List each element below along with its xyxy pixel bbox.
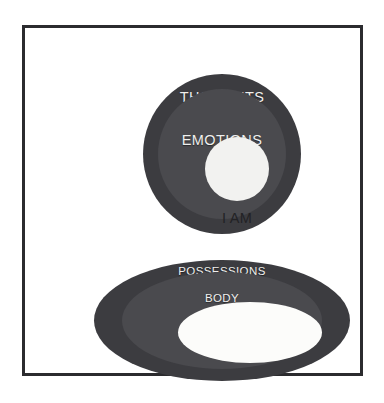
body-ring: BODY: [122, 272, 322, 369]
i-am-core: I AM: [205, 137, 269, 201]
external-ellipse-diagram: POSSESSIONS BODY: [94, 260, 350, 381]
self-circle-diagram: THOUGHTS EMOTIONS I AM: [143, 74, 301, 234]
body-label: BODY: [122, 293, 322, 305]
thoughts-ring: THOUGHTS EMOTIONS I AM: [143, 74, 301, 234]
emotions-ring: EMOTIONS I AM: [158, 89, 286, 219]
empty-core: [178, 302, 322, 363]
possessions-ring: POSSESSIONS BODY: [94, 260, 350, 381]
i-am-label: I AM: [205, 211, 269, 226]
diagram-canvas: THOUGHTS EMOTIONS I AM POSSESSIONS BODY: [0, 0, 384, 403]
image-frame: THOUGHTS EMOTIONS I AM POSSESSIONS BODY: [22, 25, 363, 376]
